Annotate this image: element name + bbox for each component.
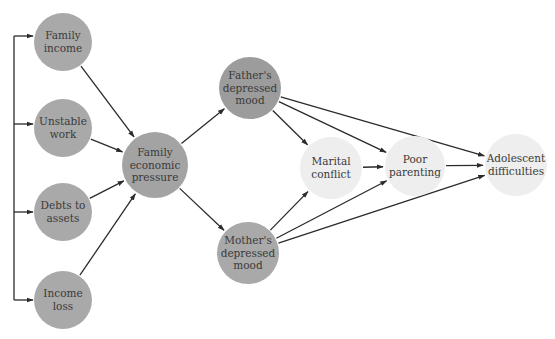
node-label: pressure (132, 171, 179, 183)
node-marital-conflict: Maritalconflict (300, 137, 362, 199)
node-poor-parenting: Poorparenting (385, 136, 445, 196)
node-label: Marital (311, 155, 351, 167)
node-mothers-depressed-mood: Mother'sdepressedmood (217, 222, 279, 284)
node-label: mood (233, 259, 263, 271)
node-label: Unstable (39, 115, 87, 127)
edge-debts_to_assets-to-family_economic_pressure (90, 181, 124, 198)
input-bracket (14, 36, 33, 300)
node-label: Adolescent (486, 152, 546, 164)
nodes: FamilyincomeUnstableworkDebts toassetsIn… (34, 13, 547, 329)
node-income-loss: Incomeloss (34, 271, 92, 329)
node-label: conflict (311, 168, 351, 180)
node-fathers-depressed-mood: Father'sdepressedmood (219, 57, 281, 119)
node-label: Income (43, 287, 82, 299)
node-label: Family (137, 146, 173, 158)
node-label: loss (53, 300, 73, 312)
node-label: income (44, 42, 83, 54)
edge-family_economic_pressure-to-fathers_depressed_mood (181, 109, 224, 144)
node-family-economic-pressure: Familyeconomicpressure (122, 132, 188, 198)
node-label: Poor (403, 153, 428, 165)
node-label: Family (45, 29, 81, 41)
node-family-income: Familyincome (34, 13, 92, 71)
node-adolescent-difficulties: Adolescentdifficulties (485, 134, 547, 196)
node-debts-to-assets: Debts toassets (34, 183, 92, 241)
node-unstable-work: Unstablework (34, 99, 92, 157)
node-label: Debts to (41, 199, 86, 211)
node-label: depressed (223, 82, 278, 94)
node-label: work (50, 128, 77, 140)
node-label: economic (130, 159, 181, 171)
path-diagram: FamilyincomeUnstableworkDebts toassetsIn… (0, 0, 555, 339)
node-label: assets (47, 212, 80, 224)
node-label: Father's (228, 69, 271, 81)
node-label: difficulties (488, 165, 544, 177)
edge-family_economic_pressure-to-mothers_depressed_mood (180, 188, 224, 230)
edge-unstable_work-to-family_economic_pressure (91, 139, 123, 152)
node-label: Mother's (224, 234, 272, 246)
edge-fathers_depressed_mood-to-marital_conflict (273, 110, 308, 144)
node-label: depressed (221, 247, 276, 259)
node-label: mood (235, 94, 265, 106)
node-label: parenting (389, 166, 441, 178)
